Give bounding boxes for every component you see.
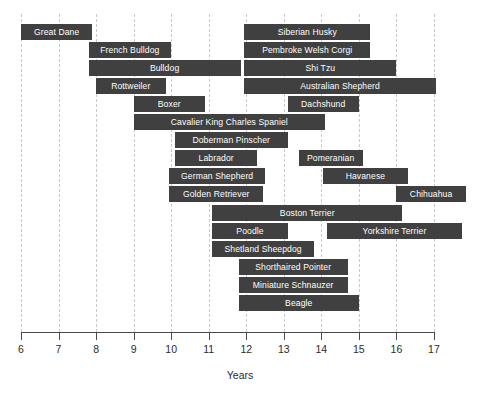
plot-area: Great DaneSiberian HuskyFrench BulldogPe… bbox=[0, 0, 480, 332]
bar-label: Chihuahua bbox=[407, 186, 455, 202]
bar[interactable]: Shorthaired Pointer bbox=[239, 259, 348, 275]
tick-10 bbox=[171, 332, 172, 340]
tick-13 bbox=[284, 332, 285, 340]
bar-label: Cavalier King Charles Spaniel bbox=[168, 114, 291, 130]
bar[interactable]: Australian Shepherd bbox=[244, 78, 435, 94]
bar-label: Rottweiler bbox=[108, 78, 153, 94]
bar-label: German Shepherd bbox=[178, 168, 256, 184]
bar[interactable]: Cavalier King Charles Spaniel bbox=[134, 114, 325, 130]
tick-14 bbox=[321, 332, 322, 340]
bar[interactable]: Boxer bbox=[134, 96, 205, 112]
bar-label: Pembroke Welsh Corgi bbox=[259, 42, 355, 58]
bar[interactable]: Chihuahua bbox=[396, 186, 465, 202]
bar[interactable]: Pomeranian bbox=[299, 150, 363, 166]
bar-label: Miniature Schnauzer bbox=[250, 277, 337, 293]
bar[interactable]: Boston Terrier bbox=[212, 205, 402, 221]
tick-11 bbox=[209, 332, 210, 340]
x-axis-line bbox=[21, 332, 434, 333]
bar[interactable]: Shi Tzu bbox=[244, 60, 396, 76]
bar[interactable]: Bulldog bbox=[89, 60, 241, 76]
gridline-6 bbox=[21, 14, 22, 332]
bar[interactable]: Yorkshire Terrier bbox=[327, 223, 462, 239]
tick-7 bbox=[59, 332, 60, 340]
tick-label: 16 bbox=[391, 343, 403, 355]
tick-label: 10 bbox=[165, 343, 177, 355]
tick-16 bbox=[396, 332, 397, 340]
bar-label: Doberman Pinscher bbox=[189, 132, 273, 148]
bar-label: Boston Terrier bbox=[277, 205, 338, 221]
bar-label: French Bulldog bbox=[97, 42, 162, 58]
bar[interactable]: Havanese bbox=[323, 168, 407, 184]
bar-label: Shorthaired Pointer bbox=[252, 259, 334, 275]
bar[interactable]: Pembroke Welsh Corgi bbox=[244, 42, 370, 58]
bar[interactable]: Great Dane bbox=[21, 24, 92, 40]
bar[interactable]: Golden Retriever bbox=[169, 186, 263, 202]
tick-label: 14 bbox=[315, 343, 327, 355]
tick-17 bbox=[434, 332, 435, 340]
bar-label: Shi Tzu bbox=[303, 60, 339, 76]
tick-9 bbox=[134, 332, 135, 340]
bar[interactable]: French Bulldog bbox=[89, 42, 172, 58]
x-axis: 67891011121314151617 Years bbox=[0, 332, 480, 406]
lifespan-range-chart: Great DaneSiberian HuskyFrench BulldogPe… bbox=[0, 0, 480, 406]
gridline-7 bbox=[59, 14, 60, 332]
bar[interactable]: Doberman Pinscher bbox=[175, 132, 288, 148]
bar[interactable]: Shetland Sheepdog bbox=[212, 241, 313, 257]
bar-label: Siberian Husky bbox=[275, 24, 340, 40]
tick-label: 8 bbox=[93, 343, 99, 355]
tick-label: 11 bbox=[203, 343, 214, 355]
bar-label: Pomeranian bbox=[304, 150, 357, 166]
tick-label: 13 bbox=[278, 343, 290, 355]
bar[interactable]: Poodle bbox=[212, 223, 287, 239]
tick-label: 12 bbox=[240, 343, 252, 355]
bar[interactable]: Rottweiler bbox=[96, 78, 165, 94]
bar-label: Great Dane bbox=[31, 24, 82, 40]
tick-label: 7 bbox=[56, 343, 62, 355]
bar-label: Boxer bbox=[155, 96, 184, 112]
bar[interactable]: Miniature Schnauzer bbox=[239, 277, 348, 293]
tick-label: 9 bbox=[131, 343, 137, 355]
bar-label: Dachshund bbox=[298, 96, 348, 112]
bar-label: Yorkshire Terrier bbox=[360, 223, 430, 239]
bar[interactable]: Siberian Husky bbox=[244, 24, 370, 40]
bar-label: Labrador bbox=[196, 150, 237, 166]
tick-8 bbox=[96, 332, 97, 340]
gridline-17 bbox=[434, 14, 435, 332]
bar-label: Havanese bbox=[343, 168, 389, 184]
bar-label: Shetland Sheepdog bbox=[222, 241, 305, 257]
bar-label: Golden Retriever bbox=[180, 186, 253, 202]
bar[interactable]: Beagle bbox=[239, 295, 359, 311]
tick-label: 15 bbox=[353, 343, 365, 355]
bar[interactable]: German Shepherd bbox=[169, 168, 265, 184]
tick-12 bbox=[246, 332, 247, 340]
bar-label: Beagle bbox=[282, 295, 315, 311]
bar-label: Bulldog bbox=[147, 60, 182, 76]
tick-6 bbox=[21, 332, 22, 340]
x-axis-title: Years bbox=[0, 369, 480, 381]
tick-label: 6 bbox=[18, 343, 24, 355]
bar-label: Australian Shepherd bbox=[297, 78, 383, 94]
tick-15 bbox=[359, 332, 360, 340]
tick-label: 17 bbox=[428, 343, 440, 355]
bar-label: Poodle bbox=[233, 223, 266, 239]
bar[interactable]: Labrador bbox=[175, 150, 258, 166]
bar[interactable]: Dachshund bbox=[288, 96, 359, 112]
